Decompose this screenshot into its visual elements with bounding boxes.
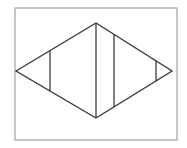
rhombus-diagram <box>0 0 187 148</box>
figure-canvas <box>0 0 187 148</box>
